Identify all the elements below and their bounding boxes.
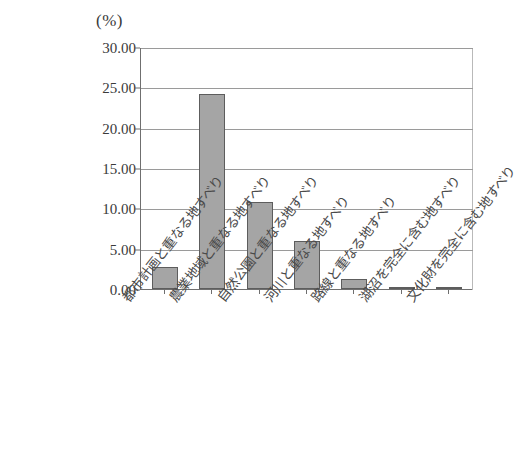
x-axis-tick-labels: 都市計画と重なる地すべり農業地域と重なる地すべり自然公園と重なる地すべり河川と重…	[0, 290, 493, 469]
gridline-15	[141, 169, 473, 170]
bar	[436, 287, 462, 289]
y-tick-label: 10.00	[74, 201, 136, 218]
y-tick-label: 15.00	[74, 161, 136, 178]
gridline-20	[141, 129, 473, 130]
y-tick-label: 5.00	[74, 241, 136, 258]
gridline-25	[141, 88, 473, 89]
y-axis-unit-label: (%)	[96, 11, 123, 31]
gridline-30	[141, 48, 473, 49]
y-axis-tick-labels: 30.00 25.00 20.00 15.00 10.00 5.00 0.00	[72, 48, 136, 290]
y-tick-label: 25.00	[74, 80, 136, 97]
y-tick-label: 20.00	[74, 120, 136, 137]
y-tick-label: 30.00	[74, 40, 136, 57]
